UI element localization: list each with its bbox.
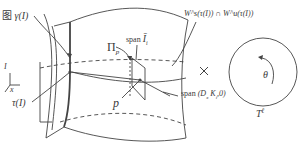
Pi-subscript: p — [116, 48, 120, 56]
Pi-p-label: Πp — [107, 41, 119, 56]
x-axis-label: x — [10, 86, 14, 94]
gamma-prefix: 图 — [2, 10, 12, 21]
span-word: span — [126, 35, 141, 44]
torus-exponent: ℓ — [262, 107, 265, 115]
span-D-label: span (Dx Ki,0) — [181, 90, 226, 100]
span-I-label: span Īi — [126, 34, 148, 46]
Pi-symbol: Π — [107, 40, 116, 54]
span-D-word: span — [181, 89, 196, 98]
gamma-label: 图 γ(I) — [2, 11, 28, 21]
I-axis-label: I — [4, 63, 7, 71]
tau-label: τ(I) — [12, 98, 26, 108]
theta-label: θ — [263, 70, 268, 80]
span-D-args: (D — [198, 89, 206, 98]
cylinder-top-edge — [70, 8, 188, 22]
p-label: p — [113, 97, 119, 109]
intersection-label: W^s(τ(I)) ∩ W^u(τ(I)) — [184, 10, 253, 18]
gamma-text: γ(I) — [15, 10, 29, 21]
times-symbol — [200, 67, 208, 75]
cylinder-left-edge — [44, 14, 52, 138]
cylinder-bottom-edge — [64, 127, 186, 141]
span-D-end: ,0) — [217, 89, 226, 98]
diagram-canvas — [0, 0, 299, 149]
span-I-subscript: i — [146, 40, 148, 46]
torus-label: Tℓ — [256, 108, 264, 119]
